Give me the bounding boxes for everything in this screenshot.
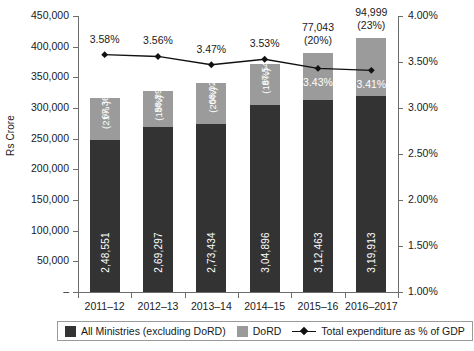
right-axis-tick-label: 1.50% [408,239,438,251]
right-axis-tick-label: 2.00% [408,193,438,205]
right-axis-tick-label: 3.00% [408,101,438,113]
category-axis-label: 2013–14 [191,300,232,312]
y-axis-title: Rs Crore [5,96,16,176]
right-axis-tick [398,154,403,155]
right-axis-tick [398,200,403,201]
line-path [105,55,372,71]
line-point-marker [315,65,322,72]
percent-of-gdp-label: 3.43% [303,76,333,88]
category-axis-tick [131,293,132,298]
left-axis-tick-label: 150,000 [31,193,69,205]
percent-of-gdp-label: 3.41% [356,78,386,90]
legend-label: DoRD [253,325,282,337]
line-point-marker [261,56,268,63]
legend-item-total-expenditure: Total expenditure as % of GDP [292,325,465,337]
category-axis-tick [291,293,292,298]
category-axis-tick [185,293,186,298]
right-axis-tick-label: 1.00% [408,285,438,297]
left-axis-tick-label: 50,000 [37,254,69,266]
legend-item-dord: DoRD [237,325,282,337]
left-axis-tick-label: – [63,285,69,297]
category-axis-tick [398,293,399,298]
stacked-bar-line-chart: Rs Crore –50,000100,000150,000200,000250… [0,0,474,351]
right-axis-tick-label: 4.00% [408,9,438,21]
line-point-marker [368,67,375,74]
right-axis-tick [398,246,403,247]
percent-of-gdp-label: 3.53% [250,37,280,49]
left-axis-tick-label: 350,000 [31,70,69,82]
category-axis-tick [78,293,79,298]
legend-item-all-ministries: All Ministries (excluding DoRD) [65,325,226,337]
left-axis-tick-label: 250,000 [31,132,69,144]
chart-legend: All Ministries (excluding DoRD) DoRD Tot… [57,321,473,341]
left-axis-tick-label: 400,000 [31,40,69,52]
line-point-marker [155,53,162,60]
percent-of-gdp-label: 3.47% [196,43,226,55]
line-marker-icon [292,327,316,336]
category-axis-label: 2015–16 [298,300,339,312]
legend-label: Total expenditure as % of GDP [321,325,465,337]
category-axis-tick [238,293,239,298]
category-axis: 2011–122012–132013–142014–152015–162016–… [78,292,398,293]
right-axis-tick-label: 2.50% [408,147,438,159]
right-axis-tick-label: 3.50% [408,55,438,67]
line-series [78,16,398,292]
left-axis-tick-label: 450,000 [31,9,69,21]
category-axis-label: 2014–15 [244,300,285,312]
line-point-marker [208,61,215,68]
category-axis-label: 2016–2017 [345,300,398,312]
left-axis-tick-label: 100,000 [31,224,69,236]
percent-of-gdp-label: 3.58% [90,33,120,45]
right-axis-tick [398,62,403,63]
legend-label: All Ministries (excluding DoRD) [81,325,226,337]
dark-square-swatch-icon [65,326,76,337]
gray-square-swatch-icon [237,326,248,337]
percent-of-gdp-label: 3.56% [143,34,173,46]
category-axis-tick [345,293,346,298]
plot-area: –50,000100,000150,000200,000250,000300,0… [78,16,398,292]
left-axis-tick-label: 200,000 [31,162,69,174]
left-axis-tick-label: 300,000 [31,101,69,113]
right-axis-tick [398,108,403,109]
line-point-marker [101,51,108,58]
category-axis-label: 2011–12 [85,300,125,312]
category-axis-label: 2012–13 [138,300,179,312]
